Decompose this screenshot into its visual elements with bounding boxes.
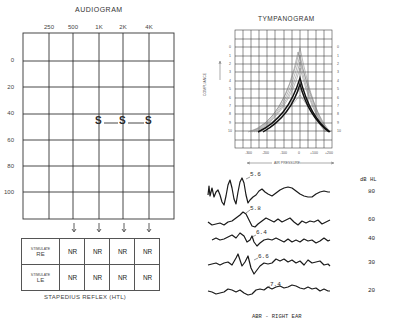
abr-waveforms — [0, 0, 393, 321]
abr-title: ABR - RIGHT EAR — [252, 313, 302, 320]
level-30: 30 — [368, 259, 375, 266]
latency-80: 5.6 — [250, 171, 261, 178]
latency-20: 7.4 — [270, 281, 281, 288]
level-60: 60 — [368, 216, 375, 223]
latency-60: 5.8 — [250, 205, 261, 212]
latency-30: 6.6 — [258, 253, 269, 260]
level-20: 20 — [368, 287, 375, 294]
level-40: 40 — [368, 235, 375, 242]
level-80: 80 — [368, 188, 375, 195]
db-hl-label: dB HL — [360, 176, 377, 183]
latency-40: 6.4 — [256, 229, 267, 236]
